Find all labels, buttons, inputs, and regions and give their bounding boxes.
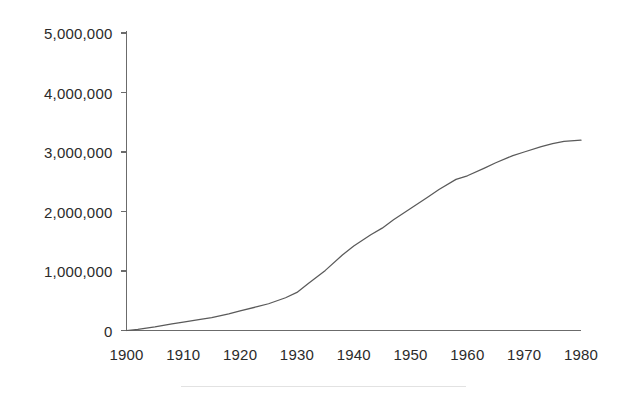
x-tick-label: 1950: [393, 347, 427, 362]
data-series-line: [127, 140, 582, 330]
y-tick-label: 1,000,000: [0, 264, 113, 279]
x-tick-label: 1960: [450, 347, 484, 362]
line-chart: 01,000,0002,000,0003,000,0004,000,0005,0…: [0, 0, 632, 396]
x-tick-label: 1920: [223, 347, 257, 362]
x-tick-label: 1930: [280, 347, 314, 362]
y-tick-label: 0: [0, 323, 113, 338]
y-tick-marks: [121, 33, 127, 331]
y-tick-label: 2,000,000: [0, 204, 113, 219]
caption-separator-rule: [181, 386, 466, 387]
x-tick-label: 1970: [507, 347, 541, 362]
y-tick-label: 4,000,000: [0, 85, 113, 100]
x-tick-label: 1980: [564, 347, 598, 362]
x-tick-label: 1910: [166, 347, 200, 362]
y-tick-label: 5,000,000: [0, 26, 113, 41]
x-tick-label: 1900: [109, 347, 143, 362]
axis-lines: [127, 31, 582, 331]
y-tick-label: 3,000,000: [0, 145, 113, 160]
x-tick-label: 1940: [337, 347, 371, 362]
